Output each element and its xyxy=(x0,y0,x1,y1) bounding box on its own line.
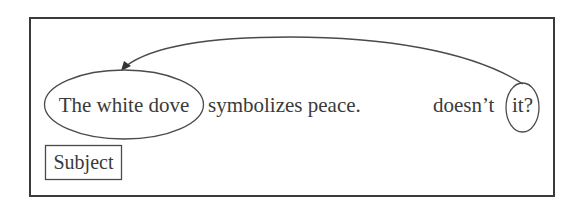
reference-arc xyxy=(126,37,523,84)
predicate-text: symbolizes peace. xyxy=(208,93,361,117)
tag-question-diagram: The white dove symbolizes peace. doesn’t… xyxy=(0,0,576,209)
subject-phrase: The white dove xyxy=(59,93,190,117)
tag-auxiliary: doesn’t xyxy=(433,93,495,117)
subject-label: Subject xyxy=(54,151,114,174)
tag-pronoun: it? xyxy=(512,93,533,117)
